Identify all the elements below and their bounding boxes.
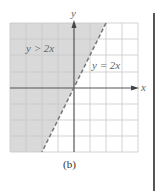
x-axis-label: x [141, 82, 146, 93]
region-label: y > 2x [26, 43, 54, 54]
y-axis-label: y [71, 8, 76, 19]
inequality-figure: y x y > 2x y = 2x (b) [0, 0, 159, 191]
figure-caption: (b) [63, 158, 76, 170]
column-divider [153, 13, 155, 191]
graph-svg [0, 0, 159, 191]
line-label: y = 2x [92, 60, 120, 71]
